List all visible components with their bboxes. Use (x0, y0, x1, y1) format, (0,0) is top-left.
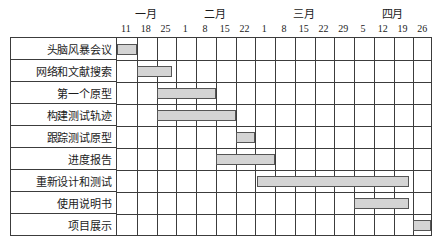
task-label-1: 网络和文献搜索 (11, 60, 117, 82)
day-tick-label: 8 (195, 22, 215, 35)
grid-row-line (117, 214, 431, 215)
gantt-bar[interactable] (117, 44, 137, 55)
task-label-7: 使用说明书 (11, 192, 117, 214)
grid-column-line (413, 38, 414, 235)
day-tick-label: 11 (116, 22, 136, 35)
grid-row-line (117, 60, 431, 61)
day-tick-label: 22 (234, 22, 254, 35)
month-label: 四月 (353, 8, 432, 21)
task-label-6: 重新设计和测试 (11, 170, 117, 192)
grid-row-line (117, 82, 431, 83)
month-label: 三月 (254, 8, 353, 21)
grid-row-line (117, 148, 431, 149)
month-label: 一月 (116, 8, 175, 21)
day-tick-label: 19 (392, 22, 412, 35)
day-tick-label: 25 (155, 22, 175, 35)
grid-column-line (255, 38, 256, 235)
day-tick-label: 1 (254, 22, 274, 35)
grid-column-line (295, 38, 296, 235)
gantt-bar[interactable] (157, 110, 236, 121)
day-tick-label: 22 (313, 22, 333, 35)
task-label-3: 构建测试轨迹 (11, 104, 117, 126)
grid-column-line (334, 38, 335, 235)
gantt-bar[interactable] (236, 132, 256, 143)
gantt-chart: 一月二月三月四月 111825181522181522295121926 头脑风… (0, 0, 442, 238)
grid-row-line (117, 104, 431, 105)
grid-row-line (117, 192, 431, 193)
month-label: 二月 (175, 8, 254, 21)
task-label-8: 项目展示 (11, 214, 117, 236)
day-tick-label: 5 (353, 22, 373, 35)
day-tick-label: 15 (215, 22, 235, 35)
gantt-body: 头脑风暴会议网络和文献搜索第一个原型构建测试轨迹跟踪测试原型进度报告重新设计和测… (10, 37, 432, 236)
month-label-row: 一月二月三月四月 (116, 8, 432, 23)
grid-row-line (117, 126, 431, 127)
grid-column-line (196, 38, 197, 235)
task-label-0: 头脑风暴会议 (11, 38, 117, 60)
gantt-bar[interactable] (157, 88, 216, 99)
task-label-5: 进度报告 (11, 148, 117, 170)
timeline-header: 一月二月三月四月 111825181522181522295121926 (116, 0, 432, 38)
grid-column-line (216, 38, 217, 235)
gantt-bar[interactable] (413, 220, 431, 231)
grid-column-line (315, 38, 316, 235)
day-tick-label: 12 (373, 22, 393, 35)
day-tick-label: 1 (175, 22, 195, 35)
day-tick-label: 15 (294, 22, 314, 35)
gantt-bar[interactable] (354, 198, 409, 209)
task-label-column: 头脑风暴会议网络和文献搜索第一个原型构建测试轨迹跟踪测试原型进度报告重新设计和测… (10, 37, 116, 236)
task-label-4: 跟踪测试原型 (11, 126, 117, 148)
gantt-bar[interactable] (216, 154, 275, 165)
day-tick-label: 18 (136, 22, 156, 35)
grid-row-line (117, 170, 431, 171)
day-tick-row: 111825181522181522295121926 (116, 22, 432, 36)
day-tick-label: 29 (333, 22, 353, 35)
grid-column-line (176, 38, 177, 235)
gantt-plot-area (116, 37, 432, 236)
day-tick-label: 8 (274, 22, 294, 35)
gantt-bar[interactable] (137, 66, 173, 77)
gantt-bar[interactable] (257, 176, 409, 187)
grid-column-line (275, 38, 276, 235)
task-label-2: 第一个原型 (11, 82, 117, 104)
day-tick-label: 26 (412, 22, 432, 35)
